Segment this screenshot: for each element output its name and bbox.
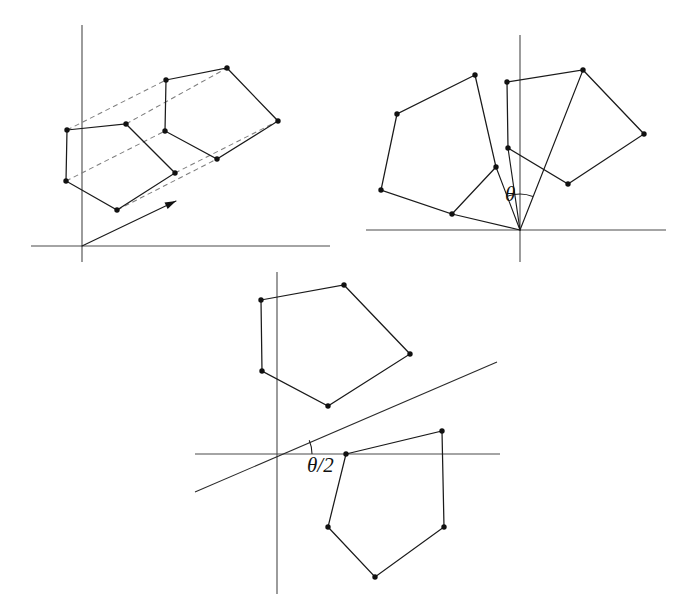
rotated-pentagon-right-vertices <box>504 67 646 186</box>
vertex-dot <box>504 79 509 84</box>
translated-pentagon <box>165 68 278 159</box>
reflection-axis-panel: θ/2 <box>195 272 500 594</box>
translation-arrow-head <box>165 201 176 209</box>
vertex-dot <box>162 128 167 133</box>
vertex-dot <box>259 368 264 373</box>
translation-dash-5 <box>66 131 165 181</box>
vertex-dot <box>505 145 510 150</box>
vertex-dot <box>439 428 444 433</box>
vertex-dot <box>394 111 399 116</box>
vertex-dot <box>372 574 377 579</box>
half-angle-mirror-line <box>195 362 497 492</box>
vertex-dot <box>343 451 348 456</box>
theta-half-label: θ/2 <box>307 453 334 477</box>
reflected-pentagon-upper <box>261 285 410 406</box>
vertex-dot <box>407 351 412 356</box>
translation-arrow-shaft <box>82 201 176 246</box>
source-pentagon-vertices <box>63 121 177 212</box>
theta-label: θ <box>505 182 515 206</box>
vertex-dot <box>258 297 263 302</box>
vertex-dot <box>275 118 280 123</box>
reflected-pentagon-lower-vertices <box>325 428 446 579</box>
vertex-dot <box>441 524 446 529</box>
vertex-dot <box>378 187 383 192</box>
geometry-figure: θ θ/2 <box>0 0 689 608</box>
vertex-dot <box>580 67 585 72</box>
translation-dashed-connectors <box>66 68 278 210</box>
translation-dash-2 <box>126 68 227 124</box>
vertex-dot <box>224 65 229 70</box>
vertex-dot <box>641 131 646 136</box>
vertex-dot <box>325 524 330 529</box>
rotated-pentagon-right <box>507 70 644 184</box>
ray-to-left-pentagon-far <box>452 214 520 230</box>
reflected-pentagon-upper-vertices <box>258 282 412 408</box>
vertex-dot <box>472 72 477 77</box>
vertex-dot <box>163 77 168 82</box>
vertex-dot <box>64 127 69 132</box>
translation-dash-3 <box>175 121 278 173</box>
figure-canvas: θ θ/2 <box>0 0 689 608</box>
vertex-dot <box>114 207 119 212</box>
rotation-angle-panel: θ <box>366 35 666 262</box>
vertex-dot <box>341 282 346 287</box>
vertex-dot <box>325 403 330 408</box>
ray-to-right-pentagon <box>520 70 583 230</box>
vertex-dot <box>493 164 498 169</box>
translation-panel <box>31 25 330 262</box>
vertex-dot <box>214 156 219 161</box>
translation-vector-arrow <box>82 201 176 246</box>
rotated-pentagon-left <box>381 75 496 214</box>
vertex-dot <box>172 170 177 175</box>
rotation-rays <box>452 70 583 230</box>
vertex-dot <box>123 121 128 126</box>
vertex-dot <box>63 178 68 183</box>
translated-pentagon-vertices <box>162 65 280 161</box>
vertex-dot <box>449 211 454 216</box>
vertex-dot <box>565 181 570 186</box>
